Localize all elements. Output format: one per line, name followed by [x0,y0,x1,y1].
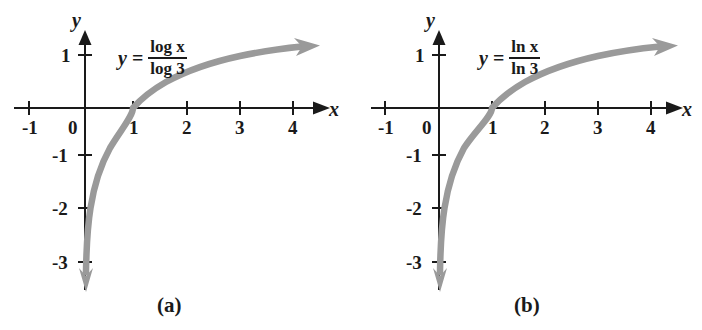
x-tick-label-4: 4 [646,118,656,137]
equation-lhs: y [118,47,127,70]
equation-annotation: y = ln x ln 3 [479,38,540,78]
x-tick-label-3: 3 [235,118,245,137]
x-tick-label-2: 2 [540,118,550,137]
x-tick-label-neg1: -1 [378,118,394,137]
x-tick-label-3: 3 [593,118,603,137]
x-tick-label-4: 4 [288,118,298,137]
y-tick-label-neg2: -2 [406,199,422,218]
equation-lhs: y [479,47,488,70]
panel-a: -1 0 1 2 3 4 1 -1 -2 -3 x y y = log x lo… [0,0,351,330]
equation-fraction: log x log 3 [148,38,186,78]
x-tick-label-neg1: -1 [22,118,38,137]
x-axis-label: x [682,99,692,119]
equation-equals: = [132,47,143,70]
x-tick-label-0: 0 [422,118,432,137]
y-tick-label-neg2: -2 [52,199,68,218]
x-axis [14,101,330,115]
x-tick-label-1: 1 [488,118,498,137]
y-tick-label-neg1: -1 [52,146,68,165]
y-tick-label-neg3: -3 [52,253,68,272]
curve-log-base-3 [79,38,320,292]
y-axis-label: y [72,10,81,30]
equation-fraction: ln x ln 3 [509,38,540,78]
figure-container: -1 0 1 2 3 4 1 -1 -2 -3 x y y = log x lo… [0,0,702,330]
equation-denominator: log 3 [148,59,186,78]
equation-numerator: log x [148,38,186,57]
x-tick-label-2: 2 [182,118,192,137]
curve-log-base-3 [433,38,678,292]
panel-caption-a: (a) [157,295,182,316]
x-tick-label-0: 0 [68,118,78,137]
y-axis-label: y [426,10,435,30]
x-axis [371,101,683,115]
y-tick-label-neg3: -3 [406,253,422,272]
x-tick-label-1: 1 [129,118,139,137]
y-tick-label-1: 1 [415,46,425,65]
x-axis-label: x [329,99,339,119]
equation-equals: = [493,47,504,70]
panel-caption-b: (b) [514,295,540,316]
panel-b: -1 0 1 2 3 4 1 -1 -2 -3 x y y = ln x ln … [351,0,702,330]
equation-numerator: ln x [509,38,540,57]
equation-annotation: y = log x log 3 [118,38,187,78]
equation-denominator: ln 3 [509,59,540,78]
y-tick-label-neg1: -1 [406,146,422,165]
y-tick-label-1: 1 [61,46,71,65]
